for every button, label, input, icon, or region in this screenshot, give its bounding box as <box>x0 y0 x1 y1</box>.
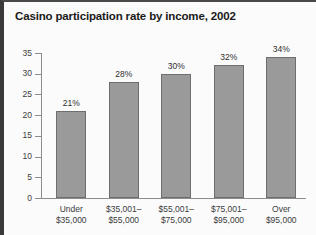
x-category-label-line: $55,000 <box>94 215 154 226</box>
x-category-label: $75,001–$95,000 <box>199 204 259 225</box>
bar-value-label: 21% <box>45 99 97 108</box>
y-axis-line <box>41 53 42 199</box>
bar-value-label: 34% <box>255 45 307 54</box>
chart-figure: Casino participation rate by income, 200… <box>0 0 316 235</box>
y-tick-label: 5 <box>12 173 32 182</box>
plot-area: 05101520253035 21%28%30%32%34% Under$35,… <box>4 2 316 235</box>
y-tick-mark <box>35 157 41 158</box>
x-category-label-line: $95,000 <box>251 215 311 226</box>
y-tick-label: 10 <box>12 152 32 161</box>
y-tick-mark <box>35 198 41 199</box>
y-tick-label: 30 <box>12 69 32 78</box>
bar <box>56 111 86 198</box>
bar <box>266 57 296 198</box>
x-axis-line <box>41 198 306 199</box>
x-category-label: $55,001–$75,000 <box>146 204 206 225</box>
y-tick-label-text: 25 <box>12 90 32 99</box>
x-category-label-line: $75,000 <box>146 215 206 226</box>
y-tick-label: 0 <box>12 194 32 203</box>
x-category-label-line: $35,001– <box>94 204 154 215</box>
bar <box>109 82 139 198</box>
bar-value-label: 28% <box>98 70 150 79</box>
bar <box>214 65 244 198</box>
x-category-label-line: Over <box>251 204 311 215</box>
y-tick-label: 25 <box>12 90 32 99</box>
x-category-label-line: Under <box>41 204 101 215</box>
x-category-label: $35,001–$55,000 <box>94 204 154 225</box>
y-tick-label-text: 15 <box>12 131 32 140</box>
y-tick-mark <box>35 74 41 75</box>
bar-value-label: 30% <box>150 62 202 71</box>
y-tick-label-text: 10 <box>12 152 32 161</box>
y-tick-label-text: 35 <box>12 49 32 58</box>
y-tick-label-text: 0 <box>12 194 32 203</box>
y-tick-label-text: 5 <box>12 173 32 182</box>
y-tick-label: 35 <box>12 49 32 58</box>
x-category-label-line: $75,001– <box>199 204 259 215</box>
y-tick-label: 15 <box>12 131 32 140</box>
y-tick-mark <box>35 53 41 54</box>
y-tick-label-text: 20 <box>12 111 32 120</box>
bar <box>161 74 191 198</box>
y-tick-label: 20 <box>12 111 32 120</box>
x-category-label-line: $95,000 <box>199 215 259 226</box>
y-tick-mark <box>35 94 41 95</box>
y-tick-label-text: 30 <box>12 69 32 78</box>
y-tick-mark <box>35 136 41 137</box>
y-tick-mark <box>35 115 41 116</box>
x-category-label: Under$35,000 <box>41 204 101 225</box>
y-tick-mark <box>35 177 41 178</box>
x-category-label: Over$95,000 <box>251 204 311 225</box>
x-category-label-line: $35,000 <box>41 215 101 226</box>
bar-value-label: 32% <box>203 53 255 62</box>
x-category-label-line: $55,001– <box>146 204 206 215</box>
